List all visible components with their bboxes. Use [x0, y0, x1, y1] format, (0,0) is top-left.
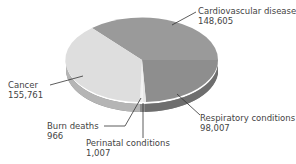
- label-cardiovascular: Cardiovascular disease 148,605: [198, 6, 296, 26]
- label-value: 98,007: [200, 123, 295, 133]
- slice-respiratory: [142, 60, 218, 102]
- label-cancer: Cancer 155,761: [8, 80, 43, 100]
- label-value: 155,761: [8, 90, 43, 100]
- label-burn-deaths: Burn deaths 966: [47, 121, 99, 141]
- label-value: 966: [47, 131, 99, 141]
- label-value: 148,605: [198, 16, 296, 26]
- label-respiratory: Respiratory conditions 98,007: [200, 113, 295, 133]
- label-perinatal: Perinatal conditions 1,007: [86, 138, 170, 158]
- label-value: 1,007: [86, 148, 170, 158]
- label-name: Cardiovascular disease: [198, 6, 296, 16]
- label-name: Burn deaths: [47, 121, 99, 131]
- label-name: Cancer: [8, 80, 43, 90]
- label-name: Respiratory conditions: [200, 113, 295, 123]
